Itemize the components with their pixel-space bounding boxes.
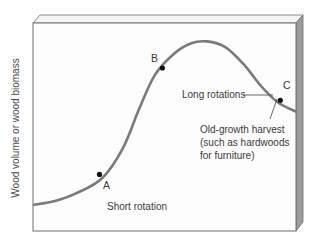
annotation-long-rotations: Long rotations bbox=[182, 89, 245, 100]
annotation-old-growth-line-1: Old-growth harvest bbox=[200, 124, 285, 135]
point-label-a: A bbox=[103, 179, 110, 191]
point-label-c: C bbox=[283, 79, 291, 91]
point-label-b: B bbox=[151, 52, 158, 64]
annotation-old-growth-line-2: (such as hardwoods bbox=[200, 137, 290, 148]
box-top-face bbox=[33, 15, 303, 23]
box-side-face bbox=[296, 15, 303, 231]
point-c bbox=[278, 98, 283, 103]
point-b bbox=[160, 65, 165, 70]
point-a bbox=[97, 172, 102, 177]
annotation-short-rotation: Short rotation bbox=[107, 201, 167, 212]
y-axis-label: Wood volume or wood biomass bbox=[10, 58, 21, 197]
annotation-old-growth-line-3: for furniture) bbox=[200, 150, 254, 161]
diagram-canvas: Wood volume or wood biomass A B C Short … bbox=[0, 0, 313, 248]
